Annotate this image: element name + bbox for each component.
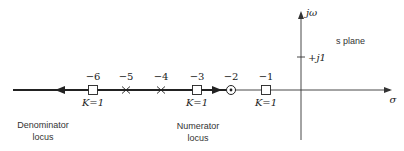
root-locus-diagram: −6 −5 −4 −3 −2 −1 K=1 K=1 K=1 σ jω +j1 s… xyxy=(0,0,404,151)
j1-label: +j1 xyxy=(308,52,326,63)
sigma-label: σ xyxy=(390,94,398,105)
s-plane-label: s plane xyxy=(336,36,365,46)
numerator-locus-label-line1: Numerator xyxy=(177,121,220,131)
denominator-locus-label-line2: locus xyxy=(32,132,54,142)
label-neg5: −5 xyxy=(119,71,134,82)
real-axis-arrow-icon xyxy=(384,87,392,93)
label-neg3: −3 xyxy=(190,71,205,82)
k-label-neg1: K=1 xyxy=(254,97,277,108)
label-neg6: −6 xyxy=(86,71,101,82)
k-label-neg3: K=1 xyxy=(185,97,208,108)
imag-axis-arrow-icon xyxy=(298,11,304,19)
label-neg2: −2 xyxy=(224,71,239,82)
k-label-neg6: K=1 xyxy=(81,97,104,108)
circled-dot-center xyxy=(230,89,233,92)
denominator-locus-label-line1: Denominator xyxy=(17,120,69,130)
numerator-locus-label-line2: locus xyxy=(187,133,209,143)
jomega-label: jω xyxy=(304,7,317,18)
left-arrow-icon xyxy=(55,86,65,94)
square-marker-neg6 xyxy=(89,86,98,95)
square-marker-neg1 xyxy=(262,86,271,95)
diagram-canvas: −6 −5 −4 −3 −2 −1 K=1 K=1 K=1 σ jω +j1 s… xyxy=(0,0,404,151)
label-neg1: −1 xyxy=(259,71,274,82)
right-arrow-icon xyxy=(212,86,222,94)
label-neg4: −4 xyxy=(154,71,169,82)
square-marker-neg3 xyxy=(193,86,202,95)
